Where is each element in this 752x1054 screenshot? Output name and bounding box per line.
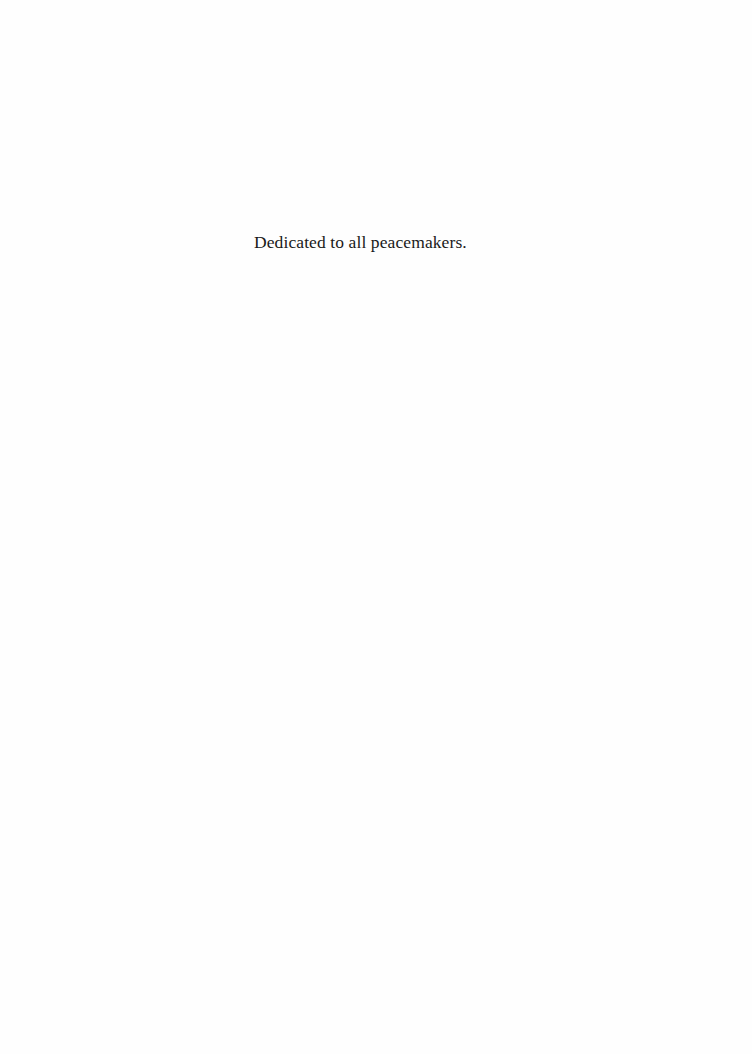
dedication-text: Dedicated to all peacemakers. — [254, 230, 467, 254]
document-page: Dedicated to all peacemakers. — [0, 0, 752, 1054]
